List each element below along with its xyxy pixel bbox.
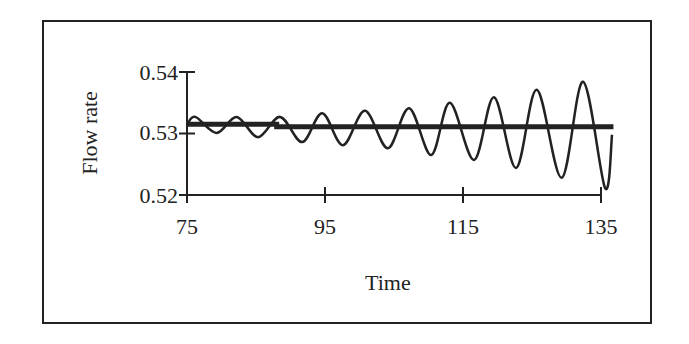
y-axis-label: Flow rate (79, 73, 101, 193)
flow-rate-line (187, 82, 612, 189)
x-tick-label-135: 135 (571, 216, 631, 238)
x-tick-label-75: 75 (157, 216, 217, 238)
plot-area (0, 0, 689, 344)
x-axis-label: Time (365, 272, 411, 294)
y-tick-label-054: 0.54 (118, 62, 178, 84)
y-tick-label-053: 0.53 (118, 122, 178, 144)
y-tick-label-052: 0.52 (118, 185, 178, 207)
x-tick-label-115: 115 (433, 216, 493, 238)
x-tick-label-95: 95 (295, 216, 355, 238)
